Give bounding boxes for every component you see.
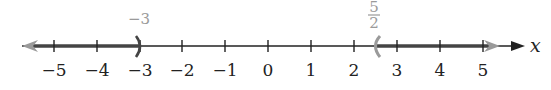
svg-text:−5: −5 (41, 60, 66, 80)
svg-text:−4: −4 (84, 60, 109, 80)
svg-text:−1: −1 (212, 60, 237, 80)
svg-text:−2: −2 (169, 60, 194, 80)
svg-text:3: 3 (392, 60, 403, 80)
number-line: −5 −4 −3 −2 −1 0 1 2 3 4 5 −3 5 2 x (0, 0, 551, 90)
svg-text:2: 2 (349, 60, 360, 80)
endpoint-label-five-halves: 5 2 (368, 0, 380, 32)
svg-text:0: 0 (263, 60, 274, 80)
svg-text:2: 2 (369, 14, 379, 32)
svg-text:4: 4 (435, 60, 446, 80)
svg-text:5: 5 (478, 60, 489, 80)
axis-variable-label: x (530, 34, 541, 56)
svg-text:−3: −3 (127, 60, 152, 80)
svg-text:1: 1 (306, 60, 317, 80)
tick-labels: −5 −4 −3 −2 −1 0 1 2 3 4 5 (41, 60, 488, 80)
endpoint-label-neg3: −3 (128, 10, 150, 28)
axis-arrow-right-icon (511, 41, 525, 51)
